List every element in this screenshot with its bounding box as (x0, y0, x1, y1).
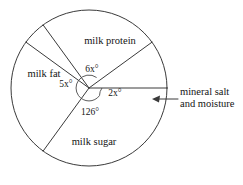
angle-arc-2x (100, 88, 103, 96)
angle-label-mineral-salt: 2x° (108, 88, 122, 98)
sector-label-milk-fat: milk fat (28, 68, 61, 79)
angle-label-milk-sugar: 126° (81, 107, 99, 117)
pie-diagram-figure: milk protein milk fat milk sugar 6x° 5x°… (0, 0, 243, 185)
callout-arrow-head (152, 96, 160, 103)
callout-label-line1: mineral salt (180, 86, 229, 97)
angle-label-milk-fat: 5x° (59, 79, 73, 89)
angle-arc-126 (79, 96, 100, 101)
callout-label-line2: and moisture (180, 98, 235, 109)
sector-label-milk-protein: milk protein (84, 35, 136, 46)
divider-fat-sugar (26, 42, 89, 88)
angle-label-milk-protein: 6x° (85, 64, 99, 74)
angle-arc-5x (76, 80, 78, 95)
sector-label-milk-sugar: milk sugar (72, 136, 117, 147)
diagram-canvas: milk protein milk fat milk sugar 6x° 5x°… (0, 0, 243, 185)
angle-arc-6x (79, 75, 97, 80)
